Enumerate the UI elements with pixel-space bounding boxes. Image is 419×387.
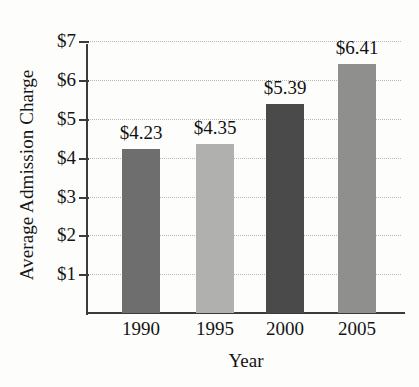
bar-2005 bbox=[338, 64, 376, 313]
x-axis-title: Year bbox=[87, 350, 405, 372]
bar-value-label-1995: $4.35 bbox=[175, 118, 255, 137]
bar-chart: Average Admission Charge $7$6$5$4$3$2$1 … bbox=[0, 0, 419, 387]
bar-value-label-2000: $5.39 bbox=[245, 78, 325, 97]
x-tick-label-2000: 2000 bbox=[245, 318, 325, 340]
bar-value-label-1990: $4.23 bbox=[101, 123, 181, 142]
bar-value-label-2005: $6.41 bbox=[317, 38, 397, 57]
x-tick-label-1990: 1990 bbox=[101, 318, 181, 340]
bar-2000 bbox=[266, 104, 304, 313]
bar-1995 bbox=[196, 144, 234, 313]
x-tick-label-2005: 2005 bbox=[317, 318, 397, 340]
bar-1990 bbox=[122, 149, 160, 313]
x-tick-label-1995: 1995 bbox=[175, 318, 255, 340]
